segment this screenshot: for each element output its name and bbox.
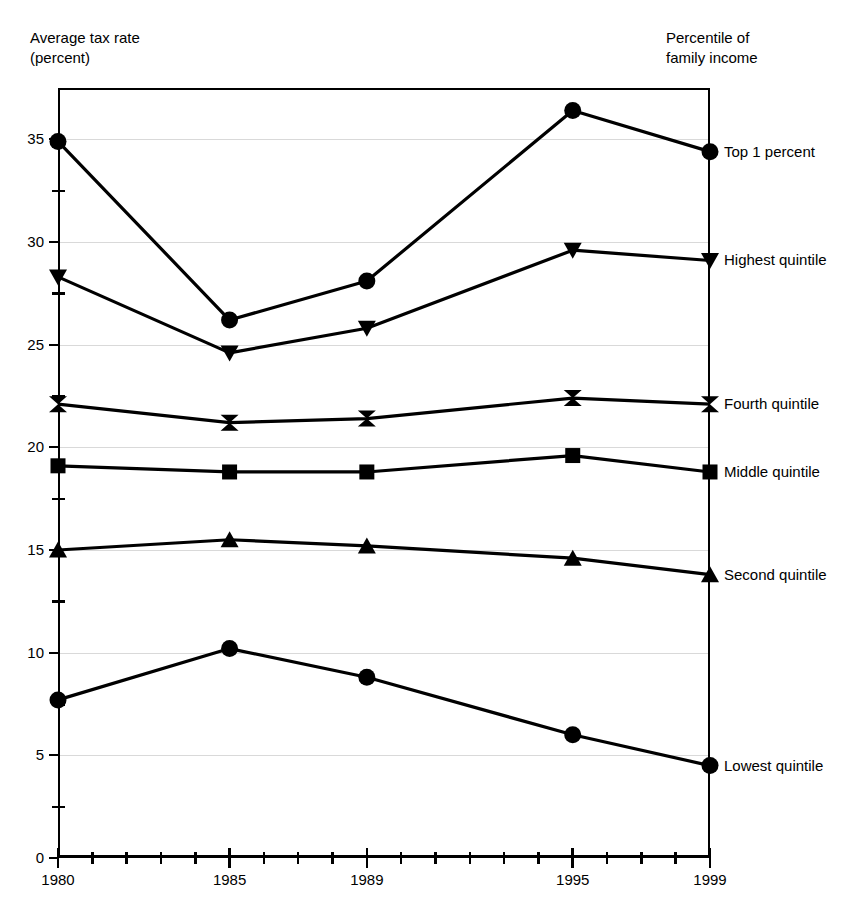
series-label-fourth-quintile: Fourth quintile — [724, 396, 819, 412]
series-3-point-1995 — [565, 448, 580, 463]
y-tick-major-10 — [49, 652, 58, 654]
y-axis-label-30: 30 — [4, 234, 44, 249]
y-axis-label-35: 35 — [4, 131, 44, 146]
x-axis-label-1995: 1995 — [538, 872, 608, 888]
chart-page: Average tax rate(percent) Percentile off… — [0, 0, 856, 924]
y-tick-major-5 — [49, 754, 58, 756]
series-5-point-1980 — [50, 691, 67, 708]
series-line-5 — [58, 649, 710, 766]
series-line-2 — [58, 398, 710, 423]
series-3-point-1999 — [703, 464, 718, 479]
series-line-4 — [58, 540, 710, 575]
series-3-point-1989 — [359, 464, 374, 479]
y-tick-major-30 — [49, 241, 58, 243]
series-label-middle-quintile: Middle quintile — [724, 464, 820, 480]
series-line-0 — [58, 111, 710, 320]
series-0-point-1980 — [50, 133, 67, 150]
y-axis-label-15: 15 — [4, 542, 44, 557]
series-label-top-1-percent: Top 1 percent — [724, 144, 815, 160]
series-label-lowest-quintile: Lowest quintile — [724, 758, 823, 774]
y-axis-caption-line2: (percent) — [30, 49, 90, 66]
series-5-point-1985 — [221, 640, 238, 657]
y-axis-label-5: 5 — [4, 747, 44, 762]
series-1-point-1980 — [49, 269, 67, 285]
series-group-caption-line1: Percentile of — [666, 29, 749, 46]
series-5-point-1999 — [702, 757, 719, 774]
series-group-caption-line2: family income — [666, 49, 758, 66]
series-5-point-1989 — [358, 669, 375, 686]
series-0-point-1985 — [221, 312, 238, 329]
x-axis-label-1999: 1999 — [675, 872, 745, 888]
series-0-point-1989 — [358, 273, 375, 290]
x-axis-label-1980: 1980 — [23, 872, 93, 888]
series-3-point-1980 — [51, 458, 66, 473]
series-label-second-quintile: Second quintile — [724, 567, 827, 583]
series-group-caption: Percentile offamily income — [666, 28, 758, 68]
y-axis-label-20: 20 — [4, 439, 44, 454]
series-0-point-1995 — [564, 102, 581, 119]
series-3-point-1985 — [222, 464, 237, 479]
y-axis-caption-line1: Average tax rate — [30, 29, 140, 46]
series-lines — [58, 88, 710, 858]
series-label-highest-quintile: Highest quintile — [724, 252, 827, 268]
y-axis-label-25: 25 — [4, 337, 44, 352]
plot-area: 05101520253035 Top 1 percentHighest quin… — [58, 88, 710, 858]
y-axis-label-10: 10 — [4, 645, 44, 660]
y-axis-label-0: 0 — [4, 850, 44, 865]
series-1-point-1985 — [221, 345, 239, 361]
y-tick-major-25 — [49, 344, 58, 346]
series-0-point-1999 — [702, 143, 719, 160]
y-axis-caption: Average tax rate(percent) — [30, 28, 140, 68]
series-5-point-1995 — [564, 726, 581, 743]
x-axis-label-1985: 1985 — [195, 872, 265, 888]
series-line-3 — [58, 456, 710, 472]
y-tick-major-20 — [49, 446, 58, 448]
x-axis-label-1989: 1989 — [332, 872, 402, 888]
